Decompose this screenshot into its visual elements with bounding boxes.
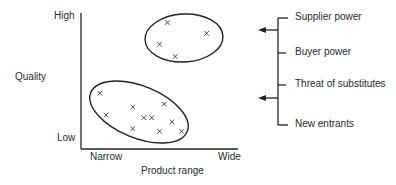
x-axis-title: Product range [141, 165, 204, 176]
y-axis-high-label: High [54, 10, 75, 21]
cross-point-low-quality-narrow-range-1 [104, 113, 109, 118]
cluster-ellipse-upper [144, 12, 224, 64]
arrowhead-upper-icon [258, 27, 266, 33]
cluster-ellipse-lower [81, 68, 197, 155]
forces-bracket [264, 18, 288, 125]
force-supplier-power: Supplier power [295, 11, 362, 22]
arrowhead-lower-icon [258, 95, 266, 101]
cross-point-high-quality-wide-range-2 [157, 42, 162, 47]
force-threat-of-substitutes: Threat of substitutes [295, 78, 386, 89]
diagram-canvas [0, 0, 396, 185]
cross-point-low-quality-narrow-range-8 [157, 129, 162, 134]
cross-point-low-quality-narrow-range-7 [131, 126, 136, 131]
cross-point-low-quality-narrow-range-9 [179, 129, 184, 134]
cross-point-low-quality-narrow-range-0 [98, 91, 103, 96]
x-axis-low-label: Narrow [90, 151, 122, 162]
cross-point-low-quality-narrow-range-5 [162, 102, 167, 107]
cross-point-low-quality-narrow-range-2 [131, 105, 136, 110]
cross-point-high-quality-wide-range-1 [204, 31, 209, 36]
force-buyer-power: Buyer power [295, 46, 351, 57]
cross-point-low-quality-narrow-range-3 [142, 115, 147, 120]
force-new-entrants: New entrants [295, 118, 354, 129]
cross-point-low-quality-narrow-range-6 [170, 120, 175, 125]
cross-point-high-quality-wide-range-3 [173, 54, 178, 59]
y-axis-title: Quality [15, 71, 46, 82]
x-axis-high-label: Wide [218, 151, 241, 162]
y-axis-low-label: Low [57, 132, 75, 143]
cross-point-high-quality-wide-range-0 [165, 20, 170, 25]
cross-point-low-quality-narrow-range-4 [149, 115, 154, 120]
